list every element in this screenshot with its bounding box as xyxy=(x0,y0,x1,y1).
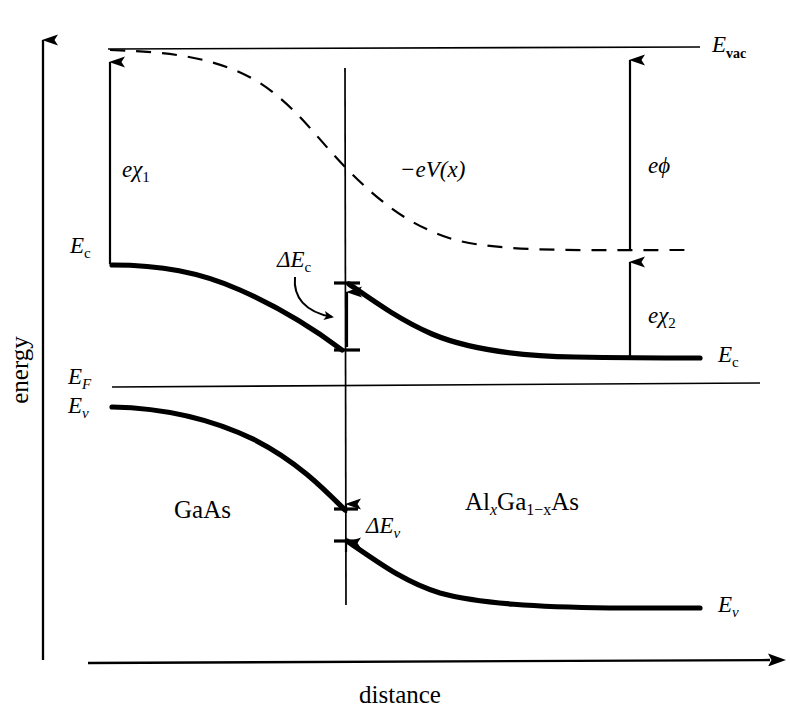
algaas-part3: As xyxy=(551,488,579,515)
potential-curve-group xyxy=(110,50,690,250)
algaas-sub1: x xyxy=(489,501,497,518)
e-chi1-base: eχ xyxy=(122,157,143,182)
vacuum-level-group xyxy=(108,47,700,49)
delta-ev-base: ΔE xyxy=(365,513,394,538)
distance-axis-line xyxy=(88,660,770,663)
e-chi1-arrow-group: eχ1 xyxy=(110,62,150,264)
delta-ec-base: ΔE xyxy=(276,247,305,272)
delta-ev-sub: v xyxy=(394,525,401,541)
band-diagram-figure: eχ1 eϕ eχ2 ΔEc xyxy=(0,0,790,714)
e-vac-label: Evac xyxy=(711,32,746,61)
e-phi-arrow-group: eϕ xyxy=(630,60,670,249)
axes-group xyxy=(43,40,770,663)
minus-eV-text: −eV(x) xyxy=(400,157,465,182)
material-label-algaas: AlxGa1−xAs xyxy=(465,488,579,518)
e-chi2-sub: 2 xyxy=(668,315,676,331)
ec-right-label-group: Ec xyxy=(717,342,739,370)
minus-eV-label-group: −eV(x) xyxy=(400,157,465,182)
delta-ec-sub: c xyxy=(305,259,312,275)
ev-right-label-group: Ev xyxy=(717,592,739,620)
e-phi-label: eϕ xyxy=(648,153,670,178)
e-chi2-label: eχ2 xyxy=(648,303,676,331)
ef-label-group: EF xyxy=(67,364,92,392)
e-chi1-label: eχ1 xyxy=(122,157,150,185)
e-vac-line xyxy=(108,47,700,49)
e-phi-base: eϕ xyxy=(648,153,670,178)
conduction-band-group xyxy=(112,265,700,358)
e-chi2-base: eχ xyxy=(648,303,669,328)
ef-sub: F xyxy=(81,376,92,392)
ec-left-base: E xyxy=(69,233,84,258)
ev-left-sub: v xyxy=(82,405,89,421)
ev-left-label-group: Ev xyxy=(67,393,89,421)
distance-axis-label: distance xyxy=(359,681,441,708)
ef-line xyxy=(112,383,760,387)
e-vac-label-group: Evac xyxy=(711,32,746,61)
junction-interface-line xyxy=(345,68,346,605)
ev-right-label: Ev xyxy=(717,592,739,620)
algaas-part2: Ga xyxy=(497,488,526,515)
ec-right-label: Ec xyxy=(717,342,739,370)
material-label-gaas: GaAs xyxy=(174,496,231,523)
e-vac-sub: vac xyxy=(726,46,746,61)
delta-ec-label: ΔEc xyxy=(276,247,312,275)
ec-left-sub: c xyxy=(84,245,91,261)
minus-eV-label: −eV(x) xyxy=(400,157,465,182)
junction-group xyxy=(345,68,346,605)
algaas-sub2: 1−x xyxy=(526,501,551,518)
ec-left-label: Ec xyxy=(69,233,91,261)
ev-algaas-curve xyxy=(347,541,700,608)
delta-ev-label: ΔEv xyxy=(365,513,401,541)
delta-ec-pointer-arrow xyxy=(295,277,332,317)
ec-right-sub: c xyxy=(732,354,739,370)
ev-gaas-curve xyxy=(112,407,345,510)
ec-right-base: E xyxy=(717,342,732,367)
ef-base: E xyxy=(67,364,82,389)
ev-left-base: E xyxy=(67,393,82,418)
ev-right-sub: v xyxy=(732,604,739,620)
e-vac-base: E xyxy=(711,32,726,57)
e-chi1-sub: 1 xyxy=(142,169,150,185)
e-chi2-arrow-group: eχ2 xyxy=(630,262,676,357)
ec-left-label-group: Ec xyxy=(69,233,91,261)
band-diagram-canvas: eχ1 eϕ eχ2 ΔEc xyxy=(0,0,790,714)
minus-eV-curve xyxy=(110,50,690,250)
ef-label: EF xyxy=(67,364,92,392)
ev-right-base: E xyxy=(717,592,732,617)
gaas-text: GaAs xyxy=(174,496,231,523)
ev-left-label: Ev xyxy=(67,393,89,421)
fermi-level-group xyxy=(112,383,760,387)
energy-axis-label: energy xyxy=(6,336,33,404)
algaas-part1: Al xyxy=(465,488,490,515)
